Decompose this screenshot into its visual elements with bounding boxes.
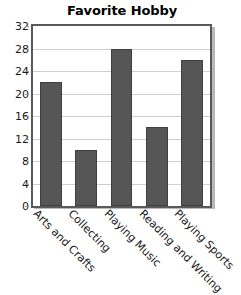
bars-container: [33, 26, 210, 206]
y-axis-tick-mark: [25, 206, 29, 207]
y-axis-tick-mark: [25, 161, 29, 162]
x-axis-category-labels: Arts and CraftsCollectingPlaying MusicRe…: [0, 208, 241, 291]
chart-title: Favorite Hobby: [31, 2, 213, 20]
y-axis-tick-mark: [25, 71, 29, 72]
y-axis-tick-labels: 322824201612840: [0, 24, 29, 208]
bar: [146, 127, 168, 206]
y-axis-tick-mark: [25, 26, 29, 27]
y-axis-tick-mark: [25, 94, 29, 95]
x-axis-category-label: Arts and Crafts: [30, 208, 97, 275]
bar: [75, 150, 97, 206]
bar: [111, 49, 133, 207]
bar: [40, 82, 62, 206]
y-axis-tick-mark: [25, 139, 29, 140]
y-axis-tick-mark: [25, 116, 29, 117]
x-axis-category-label: Playing Sports: [172, 208, 236, 272]
y-axis-tick-mark: [25, 184, 29, 185]
y-axis-tick-mark: [25, 49, 29, 50]
bar: [181, 60, 203, 206]
